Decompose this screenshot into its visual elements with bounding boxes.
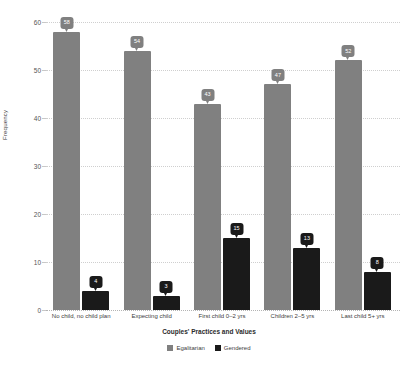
chart-legend: EgalitarianGendered — [0, 345, 418, 351]
bar-rect[interactable] — [335, 60, 362, 310]
bar-chart: Frequency 0102030405060 5845434315471352… — [0, 0, 418, 367]
legend-item-gendered[interactable]: Gendered — [215, 345, 251, 351]
bar-egalitarian[interactable]: 43 — [194, 104, 221, 310]
bar-value-label: 54 — [131, 36, 144, 48]
bar-rect[interactable] — [223, 238, 250, 310]
bar-value-label: 52 — [342, 45, 355, 57]
bar-gendered[interactable]: 13 — [293, 248, 320, 310]
x-axis-tick-label: Children 2–5 yrs — [257, 313, 327, 319]
bar-rect[interactable] — [194, 104, 221, 310]
bar-rect[interactable] — [124, 51, 151, 310]
legend-label: Gendered — [224, 345, 251, 351]
bar-rect[interactable] — [82, 291, 109, 310]
bar-egalitarian[interactable]: 47 — [264, 84, 291, 310]
bar-group: 4713 — [257, 22, 327, 310]
bar-value-label: 4 — [89, 276, 102, 288]
x-axis-title: Couples' Practices and Values — [0, 328, 418, 335]
bar-egalitarian[interactable]: 54 — [124, 51, 151, 310]
y-axis-tick-label: 60 — [34, 19, 41, 26]
bar-value-label: 13 — [300, 233, 313, 245]
y-axis-tick-label: 50 — [34, 67, 41, 74]
y-axis-title: Frequency — [2, 110, 8, 140]
x-axis-tick-label: Last child 5+ yrs — [328, 313, 398, 319]
bar-value-label: 47 — [271, 69, 284, 81]
bar-group: 584 — [46, 22, 116, 310]
y-axis-tick-label: 20 — [34, 211, 41, 218]
bar-gendered[interactable]: 15 — [223, 238, 250, 310]
bar-groups: 58454343154713528 — [46, 22, 398, 310]
x-axis-tick-label: No child, no child plan — [46, 313, 116, 319]
bar-group: 528 — [328, 22, 398, 310]
y-axis-tick-label: 10 — [34, 259, 41, 266]
bar-value-label: 58 — [60, 17, 73, 29]
y-axis-tick-label: 40 — [34, 115, 41, 122]
legend-swatch-icon — [167, 345, 173, 351]
bar-group: 4315 — [187, 22, 257, 310]
x-axis-tick-labels: No child, no child planExpecting childFi… — [46, 313, 398, 319]
x-axis-tick-label: Expecting child — [116, 313, 186, 319]
bar-gendered[interactable]: 8 — [364, 272, 391, 310]
x-axis-tick-label: First child 0–2 yrs — [187, 313, 257, 319]
bar-gendered[interactable]: 4 — [82, 291, 109, 310]
bar-rect[interactable] — [153, 296, 180, 310]
y-axis-tick-label: 30 — [34, 163, 41, 170]
bar-rect[interactable] — [264, 84, 291, 310]
bar-gendered[interactable]: 3 — [153, 296, 180, 310]
bar-rect[interactable] — [53, 32, 80, 310]
gridline — [46, 310, 400, 311]
y-axis-tick-mark — [42, 310, 46, 311]
bar-group: 543 — [116, 22, 186, 310]
legend-swatch-icon — [215, 345, 221, 351]
bar-value-label: 3 — [160, 281, 173, 293]
legend-label: Egalitarian — [176, 345, 204, 351]
bar-value-label: 8 — [371, 257, 384, 269]
bar-value-label: 43 — [201, 89, 214, 101]
legend-item-egalitarian[interactable]: Egalitarian — [167, 345, 204, 351]
bar-value-label: 15 — [230, 223, 243, 235]
bar-rect[interactable] — [364, 272, 391, 310]
bar-egalitarian[interactable]: 58 — [53, 32, 80, 310]
bar-rect[interactable] — [293, 248, 320, 310]
plot-area: 0102030405060 58454343154713528 — [46, 22, 398, 310]
y-axis-tick-label: 0 — [37, 307, 41, 314]
bar-egalitarian[interactable]: 52 — [335, 60, 362, 310]
